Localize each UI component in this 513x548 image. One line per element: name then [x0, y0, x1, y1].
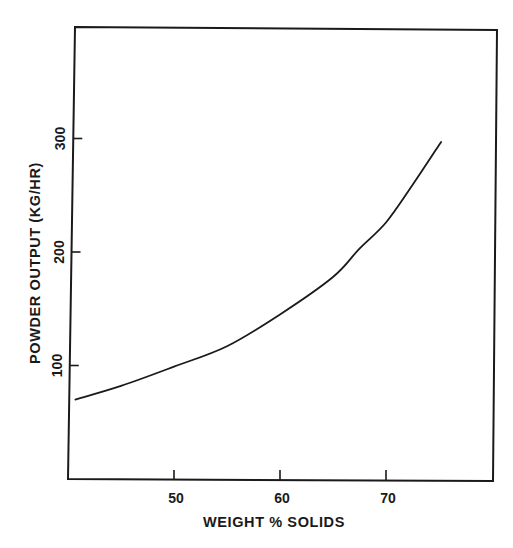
x-tick-label: 50 [168, 490, 184, 506]
plot-frame [68, 27, 497, 481]
y-axis-ticks: 100200300 [49, 127, 83, 378]
chart: 100200300 506070 WEIGHT % SOLIDS POWDER … [0, 0, 513, 548]
x-tick-label: 60 [274, 490, 290, 506]
x-axis-ticks: 506070 [168, 470, 396, 506]
y-tick-label: 100 [49, 354, 65, 378]
y-axis-title: POWDER OUTPUT (KG/HR) [27, 162, 43, 364]
data-curve [75, 142, 441, 400]
x-axis-title: WEIGHT % SOLIDS [203, 514, 345, 530]
x-tick-label: 70 [380, 490, 396, 506]
y-tick-label: 300 [52, 127, 68, 151]
y-tick-label: 200 [51, 240, 67, 264]
